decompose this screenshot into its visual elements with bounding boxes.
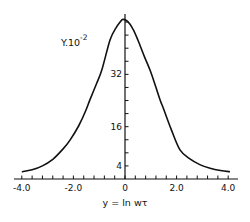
data-curve	[22, 19, 230, 171]
x-tick-label: 0	[122, 183, 128, 193]
x-axis-label: y = ln wτ	[103, 197, 148, 208]
y-axis-label-exponent: -2	[80, 33, 88, 42]
y-tick-label: 32	[111, 69, 122, 79]
y-tick-label: 4	[116, 161, 122, 171]
y-axis-label: Y.10-2	[60, 33, 88, 48]
y-tick-label: 16	[111, 122, 123, 132]
x-tick-label: -2.0	[65, 183, 83, 193]
y-axis: 41632	[111, 14, 129, 179]
x-tick-label: 2.0	[169, 183, 184, 193]
x-tick-label: 4.0	[221, 183, 236, 193]
chart: -4.0-2.002.04.0 41632 Y.10-2 y = ln wτ	[0, 0, 250, 222]
x-tick-label: -4.0	[13, 183, 31, 193]
